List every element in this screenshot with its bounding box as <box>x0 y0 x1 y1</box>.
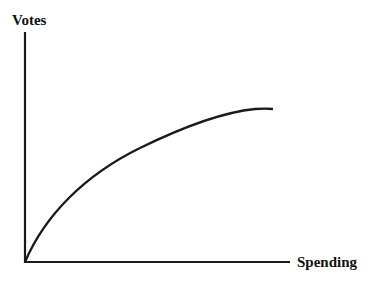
votes-spending-curve <box>25 109 273 262</box>
chart-canvas <box>0 0 377 291</box>
